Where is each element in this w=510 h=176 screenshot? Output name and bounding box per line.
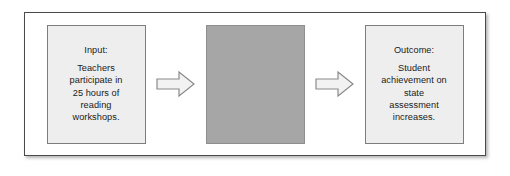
- outcome-box-line-2: achievement on: [381, 74, 447, 86]
- diagram-canvas: Input: Teachers participate in 25 hours …: [0, 0, 510, 176]
- input-box-heading: Input:: [84, 44, 107, 56]
- input-box-line-4: reading: [81, 99, 112, 111]
- outcome-box-line-1: Student: [398, 62, 430, 74]
- figure-frame: Input: Teachers participate in 25 hours …: [24, 12, 486, 156]
- input-box-line-3: 25 hours of: [73, 87, 120, 99]
- redacted-box: [206, 25, 305, 144]
- right-arrow-icon: [156, 70, 196, 98]
- outcome-box-line-5: increases.: [393, 111, 435, 123]
- input-box: Input: Teachers participate in 25 hours …: [47, 25, 146, 144]
- flow-row: Input: Teachers participate in 25 hours …: [25, 13, 485, 155]
- right-arrow-icon: [315, 70, 355, 98]
- input-box-line-2: participate in: [70, 74, 123, 86]
- connector-2: [305, 70, 365, 98]
- outcome-box-line-4: assessment: [389, 99, 439, 111]
- input-box-line-1: Teachers: [77, 62, 115, 74]
- input-box-line-5: workshops.: [73, 111, 120, 123]
- outcome-box-line-3: state: [404, 87, 424, 99]
- connector-1: [146, 70, 206, 98]
- outcome-box: Outcome: Student achievement on state as…: [365, 25, 464, 144]
- outcome-box-heading: Outcome:: [394, 44, 434, 56]
